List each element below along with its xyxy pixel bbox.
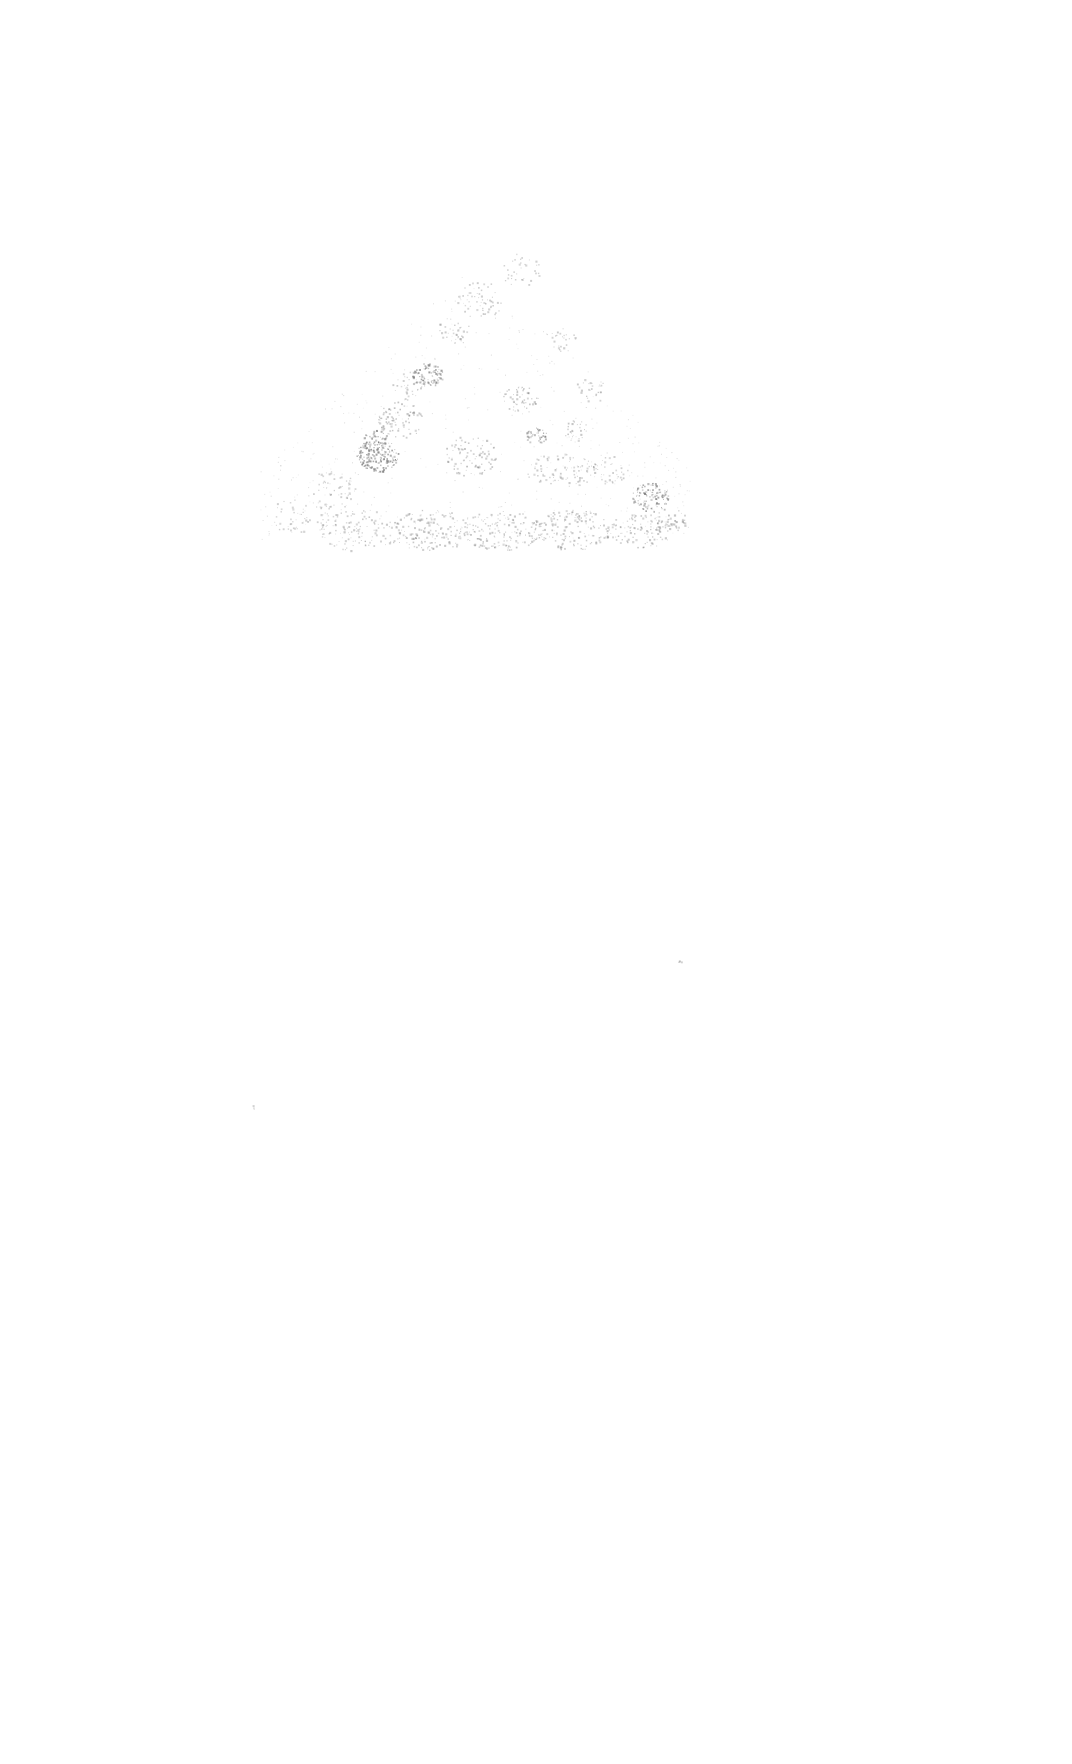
speckle-texture [0,0,1072,1764]
image-canvas [0,0,1072,1764]
